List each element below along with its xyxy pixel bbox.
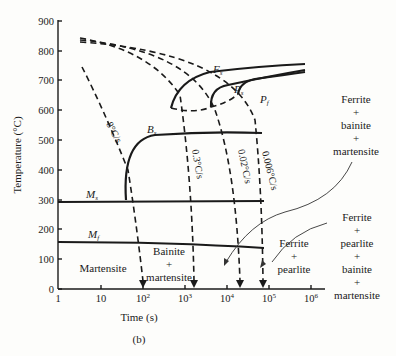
y-tick: 200: [38, 224, 54, 235]
y-axis-title: Temperature (°C): [11, 116, 24, 194]
cooling-curve-8: [82, 67, 143, 281]
region-bainite-martensite: Bainite: [153, 245, 185, 257]
x-tick: 102: [136, 292, 151, 304]
plus-sign: +: [354, 224, 360, 236]
y-tick-labels: 0 100 200 300 400 500 600 700 800 900: [38, 16, 54, 295]
region-text: pearlite: [278, 263, 311, 275]
plus-sign: +: [354, 250, 360, 262]
cct-diagram: 0 100 200 300 400 500 600 700 800 900 1 …: [0, 0, 396, 356]
x-tick-labels: 1 10 102 103 104 105 106: [55, 292, 318, 304]
y-tick: 800: [38, 46, 54, 57]
y-tick: 100: [38, 254, 54, 265]
x-tick: 103: [178, 292, 193, 304]
y-tick: 900: [38, 16, 54, 27]
pf-label: Pf: [259, 93, 270, 107]
region-martensite: Martensite: [79, 262, 126, 274]
region-text: pearlite: [341, 237, 374, 249]
region-text: martensite: [334, 289, 380, 301]
x-tick: 10: [96, 293, 107, 304]
region-text: martensite: [146, 271, 192, 283]
x-tick: 106: [304, 292, 319, 304]
x-axis-title: Time (s): [120, 311, 158, 324]
rate-label-0.006: 0.006°C/s: [260, 150, 280, 191]
x-tick: 105: [262, 292, 277, 304]
bs-label: Bs: [147, 123, 157, 137]
y-tick: 300: [38, 195, 54, 206]
plus-sign: +: [353, 132, 359, 144]
ms-label: Ms: [85, 188, 98, 202]
region-text: bainite: [341, 119, 371, 131]
leader-arrowheads: [224, 258, 266, 268]
region-labels: Martensite Bainite + martensite Ferrite …: [79, 93, 380, 301]
region-text: bainite: [342, 263, 372, 275]
plus-sign: +: [291, 250, 297, 262]
figure-caption: (b): [133, 333, 146, 346]
plus-sign: +: [354, 276, 360, 288]
x-tick: 1: [55, 293, 60, 304]
fs-label: Fs: [212, 63, 223, 77]
y-tick: 400: [38, 165, 54, 176]
y-tick: 500: [38, 135, 54, 146]
rate-label-0.02: 0.02°C/s: [236, 148, 254, 184]
region-text: martensite: [333, 145, 379, 157]
y-tick: 600: [38, 105, 54, 116]
region-ferrite-bainite-martensite: Ferrite: [341, 93, 370, 105]
y-tick: 700: [38, 75, 54, 86]
plus-sign: +: [353, 106, 359, 118]
y-tick: 0: [49, 284, 54, 295]
plus-sign: +: [166, 258, 172, 270]
martensite-start-line: [58, 201, 264, 202]
mf-label: Mf: [87, 228, 100, 242]
x-tick: 104: [220, 292, 235, 304]
region-ferrite-pearlite-bainite-martensite: Ferrite: [342, 211, 371, 223]
rate-label-8: 8°C/s: [104, 120, 124, 145]
rate-label-0.3: 0.3°C/s: [190, 148, 206, 179]
